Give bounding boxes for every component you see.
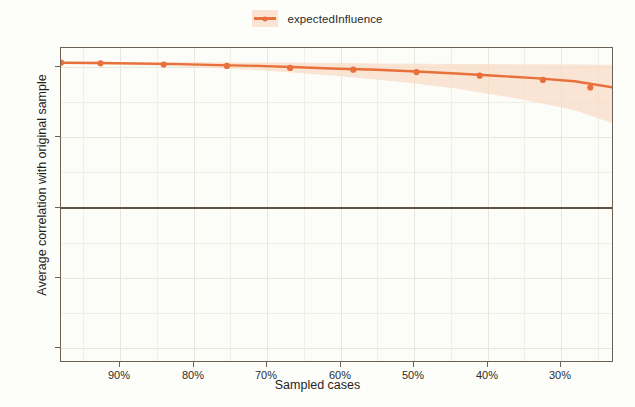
- plot-area: [60, 47, 613, 362]
- x-tick-mark: [560, 362, 561, 367]
- data-point: [161, 61, 167, 67]
- data-point: [477, 73, 483, 79]
- data-point: [61, 60, 64, 66]
- data-point: [224, 63, 230, 69]
- x-tick-mark: [266, 362, 267, 367]
- x-tick-mark: [193, 362, 194, 367]
- data-point: [287, 65, 293, 71]
- x-axis-title: Sampled cases: [0, 378, 635, 392]
- x-tick-mark: [487, 362, 488, 367]
- data-point: [413, 69, 419, 75]
- x-tick-mark: [413, 362, 414, 367]
- x-tick-mark: [340, 362, 341, 367]
- legend-entry-label: expectedInfluence: [287, 13, 382, 25]
- legend-entry-expectedinfluence: expectedInfluence: [252, 10, 382, 27]
- chart-legend: expectedInfluence: [0, 10, 635, 27]
- data-point: [350, 67, 356, 73]
- data-point: [587, 84, 593, 90]
- data-point: [97, 60, 103, 66]
- data-point: [540, 77, 546, 83]
- chart-root: expectedInfluence Average correlation wi…: [0, 0, 635, 407]
- x-tick-mark: [119, 362, 120, 367]
- confidence-band: [61, 62, 613, 124]
- legend-marker-icon: [252, 10, 278, 27]
- y-axis-title: Average correlation with original sample: [35, 35, 49, 335]
- series-expectedinfluence: [61, 48, 613, 362]
